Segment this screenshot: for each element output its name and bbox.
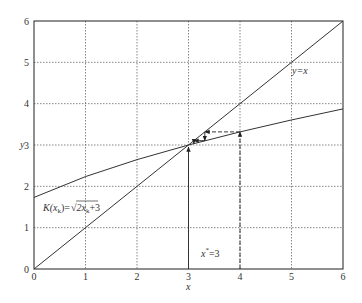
cobweb-chart: 01234560123456 y x y=x K(xk)=√2xk+3 x*=3 (0, 0, 362, 303)
tick-labels: 01234560123456 (24, 16, 346, 283)
line-label-y-eq-x: y=x (291, 65, 308, 76)
y-tick-label: 4 (24, 98, 29, 109)
curve-label-tail: +3 (89, 202, 100, 213)
x-tick-label: 6 (341, 271, 346, 282)
curve-label-prefix: K(x (42, 202, 58, 214)
x-tick-label: 5 (289, 271, 294, 282)
fixed-point-label: x*=3 (200, 246, 220, 259)
y-axis-label: y (19, 139, 25, 150)
x-tick-label: 1 (83, 271, 88, 282)
fixed-point-label-tail: =3 (209, 248, 220, 259)
y-tick-label: 2 (24, 181, 29, 192)
y-tick-label: 1 (24, 222, 29, 233)
y-tick-label: 0 (24, 264, 29, 275)
x-tick-label: 4 (238, 271, 243, 282)
curve-label-mid: )= (61, 202, 70, 214)
x-axis-label: x (185, 281, 191, 292)
y-tick-label: 5 (24, 57, 29, 68)
x-tick-label: 2 (135, 271, 140, 282)
x-tick-label: 0 (32, 271, 37, 282)
y-tick-label: 6 (24, 16, 29, 27)
y-tick-label: 3 (24, 140, 29, 151)
curve-label: K(xk)=√2xk+3 (42, 202, 100, 215)
